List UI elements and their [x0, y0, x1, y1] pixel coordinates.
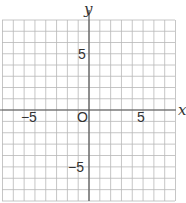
axes [0, 10, 176, 201]
origin-label: O [77, 109, 88, 125]
y-tick-label: 5 [78, 46, 86, 62]
coordinate-plane: x y O −555−5 [0, 0, 186, 203]
x-axis-label: x [178, 101, 186, 119]
y-axis-label: y [83, 0, 93, 18]
x-tick-label: 5 [137, 109, 145, 125]
x-tick-label: −5 [21, 109, 37, 125]
y-tick-label: −5 [68, 159, 84, 175]
